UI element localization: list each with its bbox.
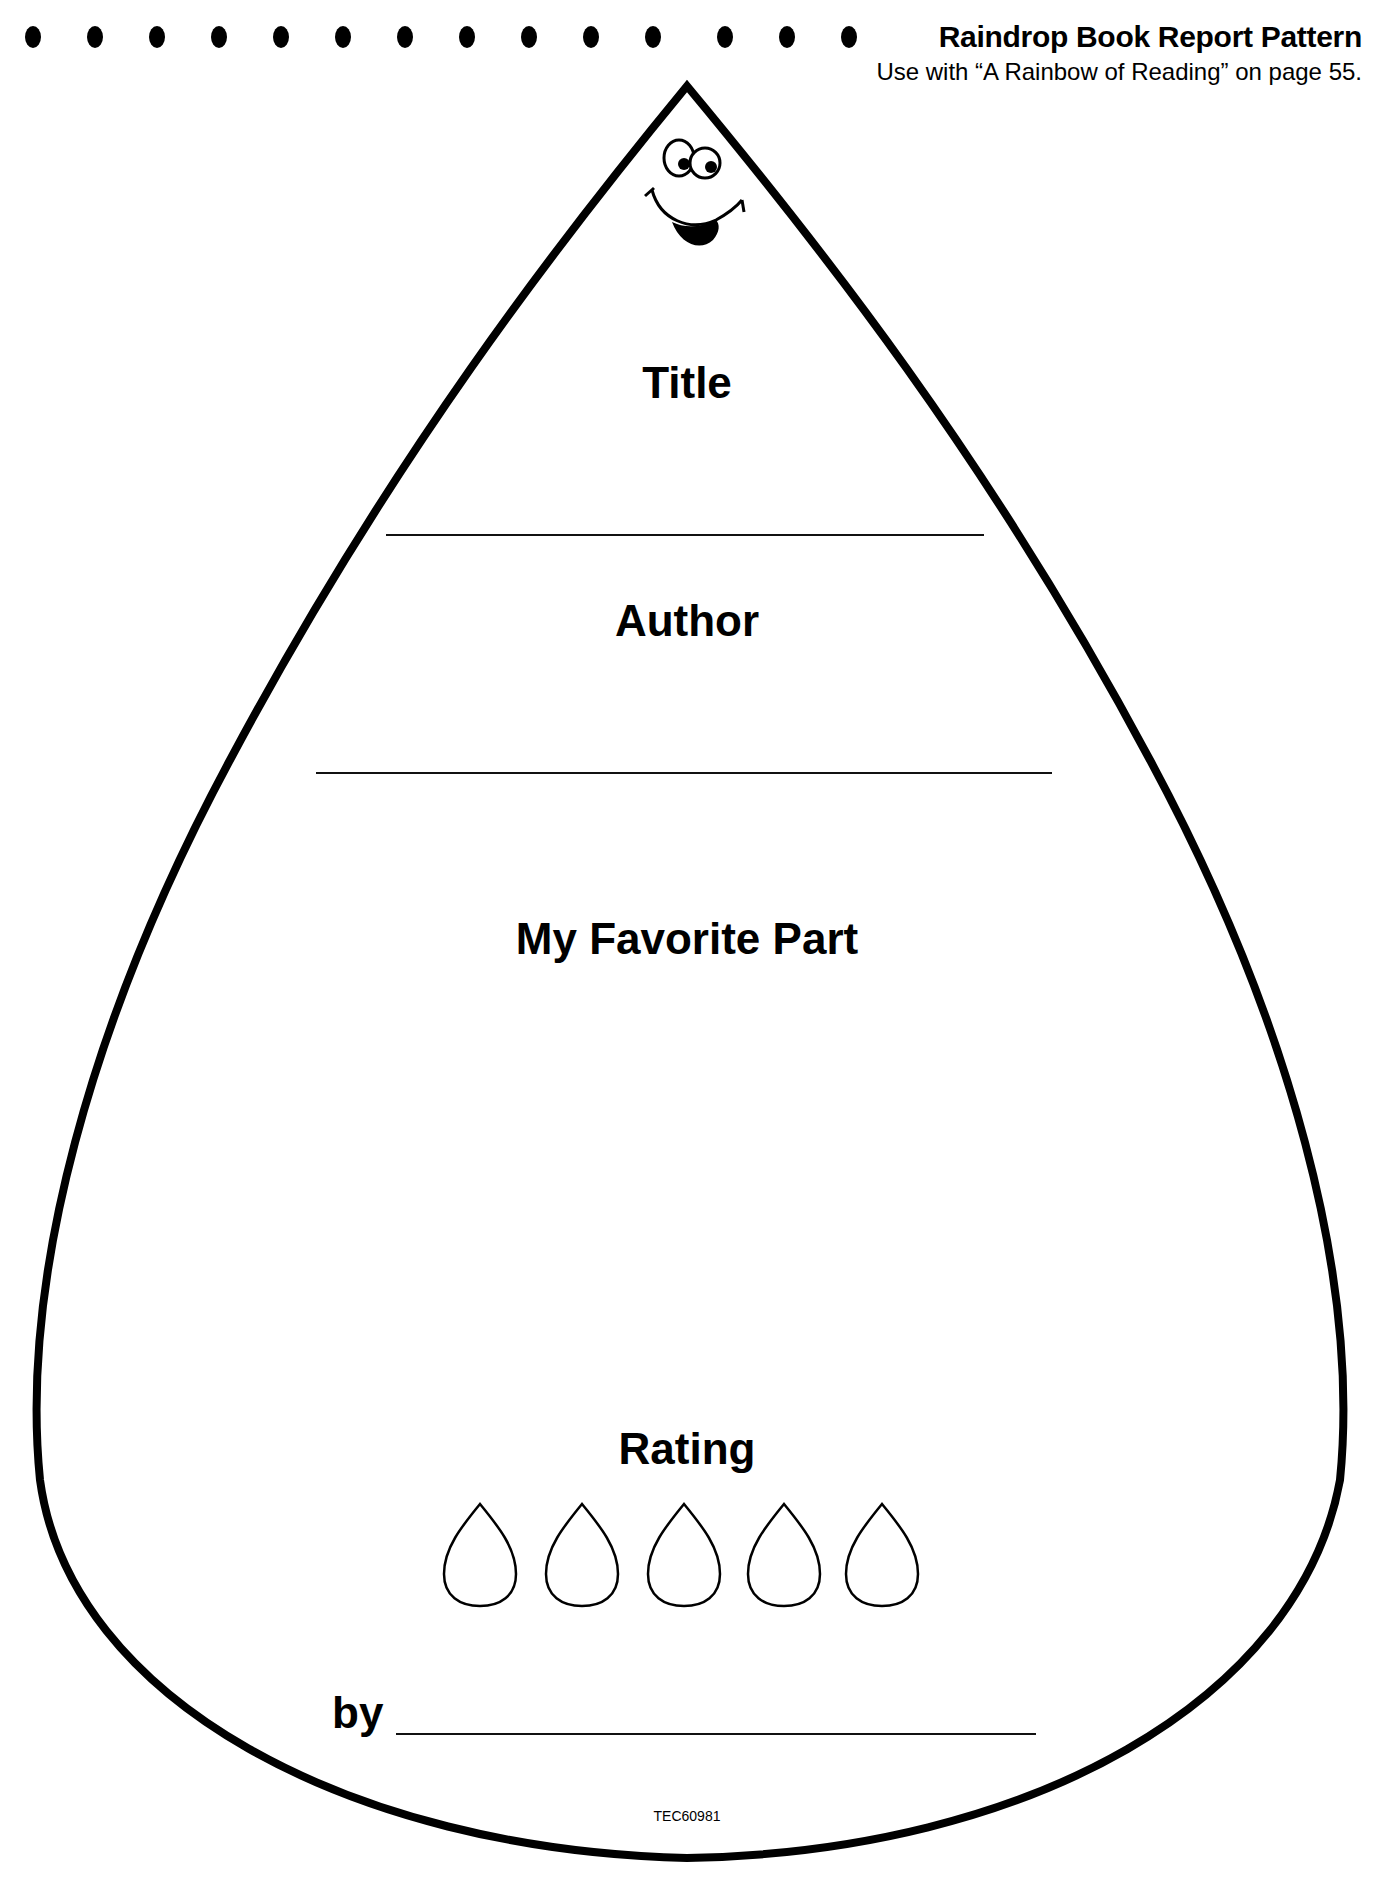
by-label: by — [332, 1688, 383, 1738]
rating-drop-5-icon[interactable] — [842, 1500, 922, 1610]
smiley-face-icon — [645, 140, 744, 246]
author-label: Author — [0, 596, 1374, 646]
rating-drops — [440, 1500, 940, 1610]
author-input-line[interactable] — [316, 772, 1052, 774]
by-input-line[interactable] — [396, 1733, 1036, 1735]
favorite-part-area[interactable] — [200, 980, 1174, 1380]
favorite-part-label: My Favorite Part — [0, 914, 1374, 964]
title-label: Title — [0, 358, 1374, 408]
rating-drop-1-icon[interactable] — [440, 1500, 520, 1610]
rating-drop-3-icon[interactable] — [644, 1500, 724, 1610]
footer-code: TEC60981 — [0, 1808, 1374, 1824]
title-input-line[interactable] — [386, 534, 984, 536]
rating-drop-4-icon[interactable] — [744, 1500, 824, 1610]
rating-label: Rating — [0, 1424, 1374, 1474]
rating-drop-2-icon[interactable] — [542, 1500, 622, 1610]
